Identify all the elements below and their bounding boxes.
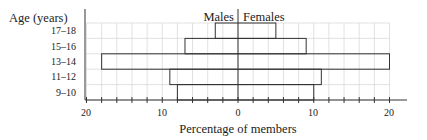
category-label: 11–12 bbox=[51, 71, 76, 82]
legend-males: Males bbox=[203, 10, 234, 24]
category-labels: 17–1815–1613–1411–129–10 bbox=[51, 25, 76, 98]
x-ticks bbox=[87, 97, 390, 103]
y-axis-title: Age (years) bbox=[9, 11, 68, 25]
tick-label-zero: 0 bbox=[236, 107, 241, 118]
category-label: 17–18 bbox=[51, 25, 76, 36]
category-label: 9–10 bbox=[56, 87, 76, 98]
bar-15–16 bbox=[185, 38, 306, 53]
tick-label-right-20: 20 bbox=[384, 107, 394, 118]
bars bbox=[102, 23, 390, 100]
population-pyramid-chart: 17–1815–1613–1411–129–10 Age (years) Mal… bbox=[0, 0, 427, 140]
category-label: 13–14 bbox=[51, 56, 76, 67]
tick-label-left-20: 20 bbox=[81, 107, 91, 118]
tick-label-left-10: 10 bbox=[157, 107, 167, 118]
x-axis-title: Percentage of members bbox=[179, 122, 296, 136]
category-label: 15–16 bbox=[51, 41, 76, 52]
legend-females: Females bbox=[243, 10, 285, 24]
tick-label-right-10: 10 bbox=[308, 107, 318, 118]
bar-9–10 bbox=[177, 85, 313, 100]
bar-13–14 bbox=[102, 54, 390, 69]
bar-17–18 bbox=[215, 23, 276, 38]
